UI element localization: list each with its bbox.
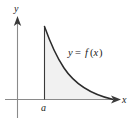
figure-container: y x a y = f ( x ) — [0, 0, 131, 123]
function-label-y: y — [67, 47, 73, 58]
function-label-equals: = — [75, 47, 81, 58]
lower-limit-label-a: a — [41, 102, 46, 113]
function-label-var-x: x — [93, 47, 99, 58]
function-label-close-paren: ) — [99, 47, 103, 59]
x-axis-label: x — [121, 94, 127, 105]
shaded-area-region — [45, 27, 113, 100]
y-axis-label: y — [13, 3, 19, 14]
function-label-group: y = f ( x ) — [67, 47, 103, 59]
figure-svg: y x a y = f ( x ) — [0, 0, 131, 123]
